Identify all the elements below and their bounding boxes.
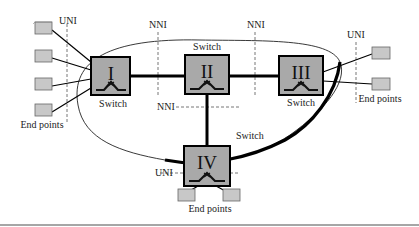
endpoint-left-1 bbox=[33, 22, 52, 34]
switch-III-label: Switch bbox=[287, 97, 315, 108]
uni-bottom-label: UNI bbox=[155, 167, 173, 178]
uni-right-label: UNI bbox=[347, 29, 365, 40]
endpoints-left-label: End points bbox=[20, 119, 63, 130]
endpoint-left-4 bbox=[35, 104, 52, 116]
endpoint-left-3 bbox=[35, 78, 52, 90]
switch-III-numeral: III bbox=[292, 62, 311, 83]
endpoint-bottom-2 bbox=[223, 189, 240, 201]
endpoint-bottom-1 bbox=[178, 189, 195, 201]
switch-II-label: Switch bbox=[193, 41, 221, 52]
endpoint-left-2 bbox=[35, 50, 52, 62]
nni-left-label: NNI bbox=[149, 19, 167, 30]
endpoints-right-label: End points bbox=[358, 93, 401, 104]
endpoint-right-2 bbox=[372, 78, 390, 90]
nni-middle-label: NNI bbox=[157, 101, 175, 112]
nni-right-label: NNI bbox=[247, 19, 265, 30]
switch-II-numeral: II bbox=[201, 61, 214, 82]
network-diagram: I II III IV Switch Switch Switch Switch … bbox=[0, 0, 419, 227]
uni-left-label: UNI bbox=[59, 15, 77, 26]
switch-I-label: Switch bbox=[99, 98, 127, 109]
switch-IV-label: Switch bbox=[236, 130, 264, 141]
endpoints-bottom-label: End points bbox=[188, 203, 231, 214]
switch-IV-numeral: IV bbox=[197, 152, 217, 173]
switch-I-numeral: I bbox=[108, 63, 114, 84]
endpoint-right-1 bbox=[372, 47, 390, 59]
